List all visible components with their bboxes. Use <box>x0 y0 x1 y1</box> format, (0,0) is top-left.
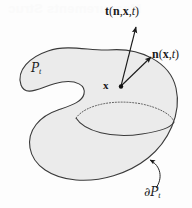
traction-paren-close: ) <box>135 4 139 18</box>
body-subscript: t <box>39 67 41 76</box>
boundary-label: ∂Pt <box>144 186 161 200</box>
body-region-label: Pt <box>31 62 41 76</box>
normal-paren-close: ) <box>175 47 179 61</box>
material-point-label: x <box>103 80 109 91</box>
boundary-subscript: t <box>158 191 160 200</box>
normal-symbol: n <box>152 47 159 61</box>
boundary-symbol: ∂P <box>144 185 158 199</box>
boundary-leader-line <box>150 160 160 188</box>
diagram-svg <box>0 0 192 208</box>
figure-canvas: Measurements Struc t(n,x,t) n(x,t) <box>0 0 192 208</box>
body-symbol: P <box>31 61 39 75</box>
body-shape <box>20 48 177 180</box>
traction-vector-label: t(n,x,t) <box>105 5 139 17</box>
normal-vector-label: n(x,t) <box>152 48 179 60</box>
traction-arg-n: n <box>113 4 120 18</box>
material-point-dot <box>119 84 123 88</box>
